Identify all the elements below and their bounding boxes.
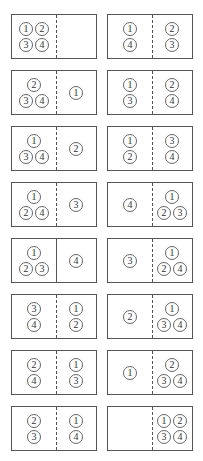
numbered-ball: 2	[27, 358, 41, 372]
numbered-ball: 2	[27, 78, 41, 92]
numbered-ball: 3	[27, 302, 41, 316]
numbered-ball: 3	[157, 430, 171, 444]
numbered-ball: 4	[173, 262, 187, 276]
distribution-box: 3412	[11, 294, 97, 339]
numbered-ball: 2	[157, 262, 171, 276]
numbered-ball: 2	[19, 206, 33, 220]
numbered-ball: 2	[123, 150, 137, 164]
numbered-ball: 1	[69, 302, 83, 316]
distribution-box: 2314	[11, 406, 97, 451]
distribution-box: 1324	[107, 70, 193, 115]
partition-divider	[152, 71, 153, 114]
distribution-box: 1243	[11, 182, 97, 227]
numbered-ball: 1	[69, 86, 83, 100]
partition-divider	[152, 407, 153, 450]
numbered-ball: 3	[69, 198, 83, 212]
numbered-ball: 3	[165, 38, 179, 52]
numbered-ball: 3	[69, 374, 83, 388]
numbered-ball: 4	[173, 430, 187, 444]
numbered-ball: 2	[173, 414, 187, 428]
numbered-ball: 1	[165, 190, 179, 204]
distribution-box: 1234	[107, 126, 193, 171]
numbered-ball: 1	[123, 134, 137, 148]
partition-divider	[56, 127, 57, 170]
numbered-ball: 4	[35, 206, 49, 220]
numbered-ball: 2	[35, 22, 49, 36]
distribution-box: 1234	[107, 350, 193, 395]
numbered-ball: 1	[123, 22, 137, 36]
numbered-ball: 2	[165, 358, 179, 372]
numbered-ball: 1	[69, 414, 83, 428]
partition-divider	[56, 183, 57, 226]
numbered-ball: 4	[165, 94, 179, 108]
distribution-box: 1234	[11, 238, 97, 283]
partition-divider	[56, 239, 57, 282]
numbered-ball: 4	[35, 94, 49, 108]
numbered-ball: 4	[35, 150, 49, 164]
numbered-ball: 3	[19, 150, 33, 164]
numbered-ball: 4	[165, 150, 179, 164]
numbered-ball: 3	[19, 94, 33, 108]
numbered-ball: 3	[165, 134, 179, 148]
numbered-ball: 1	[165, 246, 179, 260]
numbered-ball: 1	[69, 358, 83, 372]
numbered-ball: 2	[69, 318, 83, 332]
numbered-ball: 3	[173, 206, 187, 220]
numbered-ball: 3	[157, 318, 171, 332]
numbered-ball: 2	[69, 142, 83, 156]
distribution-box: 1423	[107, 14, 193, 59]
distribution-box: 1342	[11, 126, 97, 171]
numbered-ball: 1	[27, 134, 41, 148]
numbered-ball: 2	[165, 22, 179, 36]
numbered-ball: 3	[35, 262, 49, 276]
numbered-ball: 4	[173, 318, 187, 332]
numbered-ball: 2	[27, 414, 41, 428]
numbered-ball: 4	[27, 374, 41, 388]
numbered-ball: 1	[27, 246, 41, 260]
numbered-ball: 4	[69, 254, 83, 268]
partition-divider	[56, 407, 57, 450]
numbered-ball: 2	[165, 78, 179, 92]
partition-divider	[56, 351, 57, 394]
distribution-box: 2413	[11, 350, 97, 395]
numbered-ball: 1	[19, 22, 33, 36]
distribution-box: 1234	[107, 406, 193, 451]
distribution-box: 2134	[107, 294, 193, 339]
numbered-ball: 2	[123, 310, 137, 324]
partition-divider	[152, 15, 153, 58]
numbered-ball: 1	[165, 302, 179, 316]
numbered-ball: 4	[27, 318, 41, 332]
numbered-ball: 2	[157, 206, 171, 220]
numbered-ball: 4	[173, 374, 187, 388]
numbered-ball: 4	[69, 430, 83, 444]
partition-divider	[56, 15, 57, 58]
numbered-ball: 2	[19, 262, 33, 276]
numbered-ball: 3	[123, 254, 137, 268]
numbered-ball: 3	[19, 38, 33, 52]
partition-divider	[152, 295, 153, 338]
numbered-ball: 1	[123, 78, 137, 92]
numbered-ball: 4	[35, 38, 49, 52]
distribution-box: 3124	[107, 238, 193, 283]
partition-divider	[152, 239, 153, 282]
numbered-ball: 4	[123, 38, 137, 52]
numbered-ball: 1	[157, 414, 171, 428]
distribution-box: 2341	[11, 70, 97, 115]
partition-divider	[152, 351, 153, 394]
partition-divider	[152, 183, 153, 226]
numbered-ball: 3	[123, 94, 137, 108]
partition-divider	[152, 127, 153, 170]
distribution-box: 1234	[11, 14, 97, 59]
numbered-ball: 1	[27, 190, 41, 204]
numbered-ball: 3	[157, 374, 171, 388]
numbered-ball: 4	[123, 198, 137, 212]
partition-divider	[56, 71, 57, 114]
distribution-box: 4123	[107, 182, 193, 227]
partition-divider	[56, 295, 57, 338]
numbered-ball: 1	[123, 366, 137, 380]
numbered-ball: 3	[27, 430, 41, 444]
